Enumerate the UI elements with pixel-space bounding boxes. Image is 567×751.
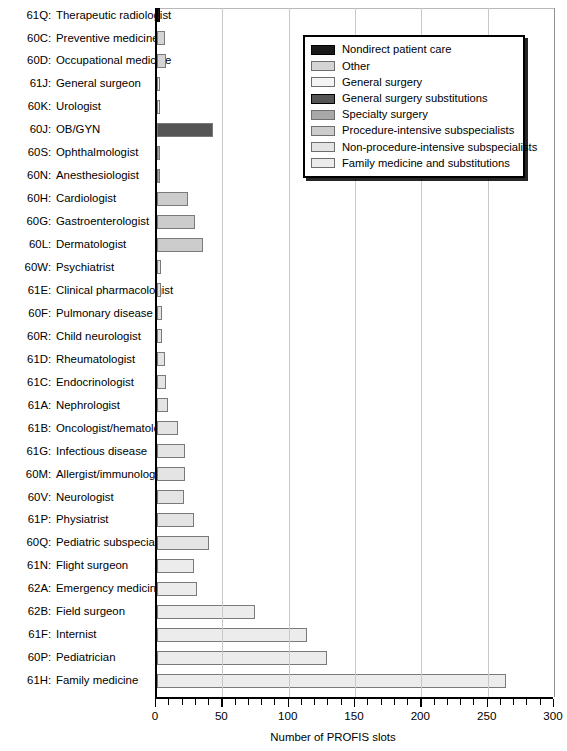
category-name: Urologist	[56, 101, 148, 112]
legend-label: General surgery substitutions	[342, 93, 488, 104]
category-code: 60Q	[26, 537, 48, 548]
legend-item: Nondirect patient care	[311, 42, 517, 58]
label-separator: :	[48, 170, 52, 181]
category-label-column: 61Q:Therapeutic radiologist60C:Preventiv…	[0, 0, 152, 697]
legend-item: Procedure-intensive subspecialists	[311, 123, 517, 139]
axis-tick-minor	[195, 699, 196, 705]
category-name: Therapeutic radiologist	[56, 10, 148, 21]
x-tick-label: 150	[334, 709, 374, 722]
label-separator: :	[48, 446, 52, 457]
legend-swatch	[311, 61, 335, 71]
bar	[157, 215, 195, 229]
label-separator: :	[48, 652, 52, 663]
category-code: 61P	[28, 514, 48, 525]
category-label: 60L:Dermatologist	[0, 233, 148, 258]
category-label: 61E:Clinical pharmacologist	[0, 278, 148, 303]
axis-tick-minor	[540, 699, 541, 705]
bar	[157, 398, 168, 412]
legend-label: Nondirect patient care	[342, 44, 451, 55]
category-name: Field surgeon	[56, 606, 148, 617]
category-code: 61A	[28, 400, 48, 411]
x-tick-label: 50	[201, 709, 241, 722]
category-name: Ophthalmologist	[56, 147, 148, 158]
category-code: 60G	[26, 216, 48, 227]
category-name: OB/GYN	[56, 124, 148, 135]
label-separator: :	[48, 469, 52, 480]
label-separator: :	[48, 193, 52, 204]
axis-tick-minor	[274, 699, 275, 705]
label-separator: :	[48, 675, 52, 686]
category-code: 60N	[27, 170, 48, 181]
category-name: Cardiologist	[56, 193, 148, 204]
label-separator: :	[48, 537, 52, 548]
category-label: 60P:Pediatrician	[0, 646, 148, 671]
bar	[157, 559, 194, 573]
category-code: 60H	[27, 193, 48, 204]
x-tick-label: 250	[467, 709, 507, 722]
axis-tick-major	[354, 699, 355, 707]
category-code: 60J	[30, 124, 48, 135]
category-code: 60C	[27, 33, 48, 44]
bar	[157, 421, 178, 435]
label-separator: :	[48, 55, 52, 66]
bar	[157, 169, 160, 183]
label-separator: :	[48, 216, 52, 227]
category-name: Dermatologist	[56, 239, 148, 250]
label-separator: :	[48, 331, 52, 342]
category-label: 60R:Child neurologist	[0, 324, 148, 349]
bar	[157, 329, 162, 343]
category-label: 60K:Urologist	[0, 95, 148, 120]
axis-tick-minor	[434, 699, 435, 705]
axis-tick-minor	[341, 699, 342, 705]
category-name: General surgeon	[56, 78, 148, 89]
bar	[157, 123, 213, 137]
category-code: 61D	[27, 354, 48, 365]
category-name: Emergency medicine	[56, 583, 148, 594]
category-label: 61G:Infectious disease	[0, 439, 148, 464]
bar	[157, 54, 166, 68]
category-label: 61A:Nephrologist	[0, 393, 148, 418]
category-code: 61C	[27, 377, 48, 388]
category-label: 60N:Anesthesiologist	[0, 164, 148, 189]
category-name: Child neurologist	[56, 331, 148, 342]
label-separator: :	[48, 354, 52, 365]
category-label: 60Q:Pediatric subspecialist	[0, 531, 148, 556]
label-separator: :	[48, 101, 52, 112]
bar	[157, 674, 506, 688]
label-separator: :	[48, 423, 52, 434]
label-separator: :	[48, 239, 52, 250]
category-name: Psychiatrist	[56, 262, 148, 273]
legend-swatch	[311, 126, 335, 136]
category-name: Clinical pharmacologist	[56, 285, 148, 296]
bar	[157, 352, 165, 366]
axis-tick-minor	[526, 699, 527, 705]
bar	[157, 444, 185, 458]
category-code: 60F	[28, 308, 48, 319]
axis-tick-major	[553, 699, 554, 707]
category-label: 62B:Field surgeon	[0, 600, 148, 625]
category-name: Neurologist	[56, 492, 148, 503]
label-separator: :	[48, 583, 52, 594]
x-tick-label: 0	[135, 709, 175, 722]
gridline	[554, 8, 555, 697]
category-name: Pediatrician	[56, 652, 148, 663]
axis-tick-major	[420, 699, 421, 707]
x-tick-label: 300	[533, 709, 567, 722]
legend-item: Specialty surgery	[311, 107, 517, 123]
legend-item: Other	[311, 58, 517, 74]
label-separator: :	[48, 262, 52, 273]
category-name: Allergist/immunologist	[56, 469, 148, 480]
category-label: 61B:Oncologist/hematologist	[0, 416, 148, 441]
category-code: 61G	[26, 446, 48, 457]
legend-label: Specialty surgery	[342, 109, 428, 120]
axis-tick-minor	[168, 699, 169, 705]
label-separator: :	[48, 147, 52, 158]
label-separator: :	[48, 33, 52, 44]
x-tick-label: 200	[400, 709, 440, 722]
bar	[157, 238, 203, 252]
label-separator: :	[48, 514, 52, 525]
x-axis: 050100150200250300	[155, 697, 553, 699]
bar	[157, 8, 160, 22]
label-separator: :	[48, 629, 52, 640]
bar	[157, 628, 307, 642]
